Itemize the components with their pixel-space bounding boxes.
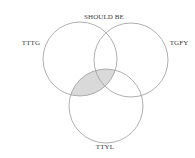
venn-diagram: SHOULD BE TTTG TGFY TTYL	[0, 0, 195, 158]
label-should-be: SHOULD BE	[84, 13, 124, 21]
label-tgfy: TGFY	[170, 39, 189, 47]
circle-tgfy	[94, 23, 168, 97]
label-ttyl: TTYL	[96, 143, 114, 151]
label-tttg: TTTG	[22, 39, 40, 47]
